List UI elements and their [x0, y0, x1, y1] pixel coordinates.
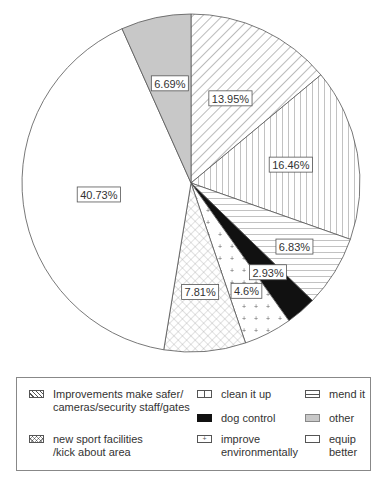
- svg-text:40.73%: 40.73%: [80, 189, 118, 201]
- legend-label: equip: [329, 433, 356, 445]
- svg-text:16.46%: 16.46%: [272, 159, 310, 171]
- pie-chart: + 13.95%16.46%6.83%2.93%4.6%7.81%40.73%6…: [0, 0, 389, 370]
- legend-item-sport: new sport facilities/kick about area: [29, 433, 143, 459]
- svg-text:2.93%: 2.93%: [252, 267, 283, 279]
- svg-text:7.81%: 7.81%: [185, 286, 216, 298]
- crosshatch-pattern-swatch-icon: [29, 435, 44, 443]
- legend-label: new sport facilities: [53, 433, 143, 445]
- legend-label: dog control: [221, 412, 275, 425]
- legend-item-improvements: Improvements make safer/cameras/security…: [29, 388, 190, 414]
- legend-label: better: [329, 446, 357, 458]
- dotted-pattern-swatch-icon: +: [197, 435, 212, 443]
- svg-text:13.95%: 13.95%: [212, 93, 250, 105]
- vertical-pattern-swatch-icon: [197, 390, 212, 398]
- slice-value-label: 6.69%: [151, 76, 188, 91]
- slice-value-label: 16.46%: [269, 157, 312, 172]
- legend-item-equip: equipbetter: [305, 433, 357, 459]
- legend-item-clean: clean it up: [197, 388, 271, 401]
- legend-label: mend it: [329, 388, 365, 401]
- legend-label: Improvements make safer/: [53, 388, 183, 400]
- legend-label: cameras/security staff/gates: [53, 401, 190, 413]
- diagonal-pattern-swatch-icon: [29, 390, 44, 398]
- legend: Improvements make safer/cameras/security…: [16, 377, 371, 471]
- slice-value-label: 6.83%: [276, 239, 313, 254]
- svg-text:6.69%: 6.69%: [154, 78, 185, 90]
- pie-slices: [22, 14, 360, 352]
- svg-text:4.6%: 4.6%: [234, 285, 259, 297]
- slice-value-label: 13.95%: [209, 91, 252, 106]
- legend-item-environment: + improveenvironmentally: [197, 433, 298, 459]
- solid-black-swatch-icon: [197, 414, 212, 422]
- legend-item-other: other: [305, 412, 354, 425]
- legend-label: environmentally: [221, 446, 298, 458]
- svg-text:6.83%: 6.83%: [279, 241, 310, 253]
- legend-label: other: [329, 412, 354, 425]
- horizontal-pattern-swatch-icon: [305, 390, 320, 398]
- legend-label: /kick about area: [53, 446, 131, 458]
- white-swatch-icon: [305, 435, 320, 443]
- legend-label: improve: [221, 433, 260, 445]
- slice-value-label: 4.6%: [231, 283, 262, 298]
- legend-item-dog: dog control: [197, 412, 275, 425]
- gray-swatch-icon: [305, 414, 320, 422]
- legend-item-mend: mend it: [305, 388, 365, 401]
- slice-value-label: 2.93%: [250, 265, 287, 280]
- slice-value-label: 40.73%: [77, 187, 120, 202]
- slice-value-label: 7.81%: [182, 284, 219, 299]
- legend-label: clean it up: [221, 388, 271, 401]
